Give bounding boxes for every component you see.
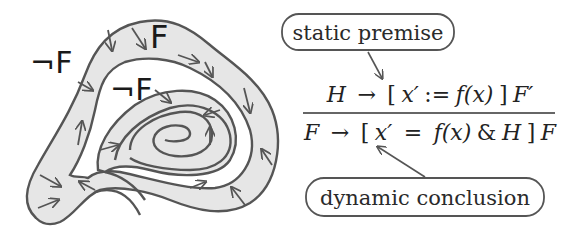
- conclusion-bracket-close: ]: [527, 120, 536, 145]
- premise-post: F′: [512, 82, 533, 107]
- conclusion-eq: =: [404, 120, 422, 145]
- premise-formula: H → [ x′ := f(x) ] F′: [326, 82, 534, 107]
- static-premise-pointer: [368, 52, 382, 78]
- dynamic-conclusion-callout: dynamic conclusion: [306, 147, 544, 216]
- premise-bracket-close: ]: [499, 82, 508, 107]
- rule-conclusion: F → [ x′ = f(x) & H ] F: [303, 120, 557, 145]
- dynamic-conclusion-label: dynamic conclusion: [320, 186, 530, 210]
- conclusion-rhs: f(x): [432, 120, 472, 145]
- premise-var: x′: [401, 82, 418, 107]
- dynamic-conclusion-pointer: [378, 147, 425, 177]
- premise-arrow: →: [357, 82, 375, 107]
- premise-assign: :=: [424, 82, 450, 107]
- label-f-top: F: [150, 18, 168, 56]
- conclusion-domain: H: [501, 120, 522, 145]
- stem-outer: [95, 190, 140, 215]
- label-not-f-inner: ¬F: [110, 72, 152, 107]
- conclusion-bracket-open: [: [361, 120, 370, 145]
- premise-bracket-open: [: [387, 82, 396, 107]
- conclusion-var: x′: [375, 120, 392, 145]
- invariant-diagram: ¬F F ¬F static premise H → [ x′ := f(x) …: [0, 0, 566, 239]
- conclusion-amp: &: [477, 120, 497, 145]
- conclusion-lhs: F: [303, 120, 320, 145]
- rule-premise: H → [ x′ := f(x) ] F′: [326, 82, 534, 107]
- conclusion-formula: F → [ x′ = f(x) & H ] F: [303, 120, 557, 145]
- label-not-f-outer: ¬F: [30, 45, 72, 80]
- premise-rhs: f(x): [454, 82, 494, 107]
- conclusion-arrow: →: [331, 120, 349, 145]
- static-premise-callout: static premise: [282, 14, 454, 78]
- premise-lhs: H: [326, 82, 347, 107]
- conclusion-post: F: [540, 120, 557, 145]
- static-premise-label: static premise: [292, 21, 443, 45]
